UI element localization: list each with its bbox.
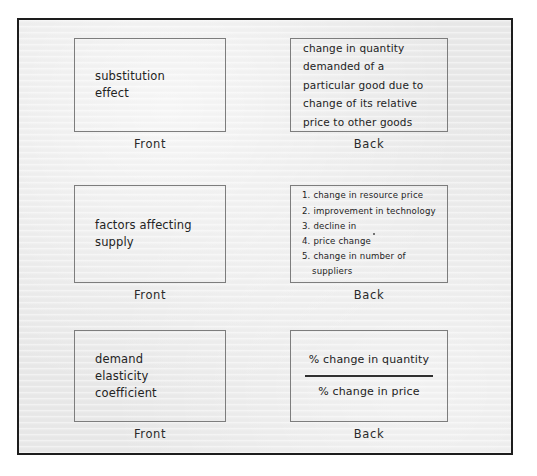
flashcard-back-cell: change in quantity demanded of a particu…: [290, 38, 448, 151]
back-label: Back: [290, 288, 448, 302]
term-line: substitution: [95, 68, 225, 85]
fraction-denominator: % change in price: [303, 384, 435, 400]
term-line: demand: [95, 351, 225, 368]
definition-list: 1. change in resource price 2. improveme…: [291, 188, 447, 279]
flashcard-front-cell: factors affecting supply Front: [74, 185, 226, 302]
flashcard-front-card: demand elasticity coefficient: [74, 330, 226, 422]
list-item: 4. price change: [302, 234, 439, 249]
fraction-numerator: % change in quantity: [303, 352, 435, 375]
flashcard-front-card: factors affecting supply: [74, 185, 226, 283]
term-text: substitution effect: [75, 68, 225, 102]
flashcard-front-cell: substitution effect Front: [74, 38, 226, 151]
list-item: 5. change in number of: [302, 249, 439, 264]
stray-pencil-mark: [373, 233, 375, 235]
term-line: effect: [95, 85, 225, 102]
sheet-frame: substitution effect Front change in quan…: [17, 18, 513, 455]
definition-line: demanded of a: [303, 57, 437, 76]
flashcard-back-card: % change in quantity % change in price: [290, 330, 448, 422]
definition-line: change of its relative: [303, 94, 437, 113]
fraction-bar: [305, 375, 433, 377]
list-item: 1. change in resource price: [302, 188, 439, 203]
flashcard-front-card: substitution effect: [74, 38, 226, 132]
flashcard-back-cell: % change in quantity % change in price B…: [290, 330, 448, 441]
definition-line: particular good due to: [303, 76, 437, 95]
definition-line: change in quantity: [303, 39, 437, 58]
flashcard-back-card: 1. change in resource price 2. improveme…: [290, 185, 448, 283]
term-line: elasticity: [95, 368, 225, 385]
flashcard-sheet-page: substitution effect Front change in quan…: [0, 0, 537, 476]
definition-text: change in quantity demanded of a particu…: [291, 39, 447, 132]
list-item-continuation: suppliers: [302, 264, 439, 279]
flashcard-front-cell: demand elasticity coefficient Front: [74, 330, 226, 441]
term-line: coefficient: [95, 385, 225, 402]
list-item: 2. improvement in technology: [302, 204, 439, 219]
back-label: Back: [290, 427, 448, 441]
list-item: 3. decline in: [302, 219, 439, 234]
front-label: Front: [74, 288, 226, 302]
formula-fraction: % change in quantity % change in price: [291, 352, 447, 400]
back-label: Back: [290, 137, 448, 151]
term-line: factors affecting: [95, 217, 225, 234]
front-label: Front: [74, 427, 226, 441]
flashcard-back-cell: 1. change in resource price 2. improveme…: [290, 185, 448, 302]
flashcard-back-card: change in quantity demanded of a particu…: [290, 38, 448, 132]
definition-line: price to other goods: [303, 113, 437, 132]
term-text: factors affecting supply: [75, 217, 225, 251]
front-label: Front: [74, 137, 226, 151]
term-text: demand elasticity coefficient: [75, 351, 225, 402]
term-line: supply: [95, 234, 225, 251]
